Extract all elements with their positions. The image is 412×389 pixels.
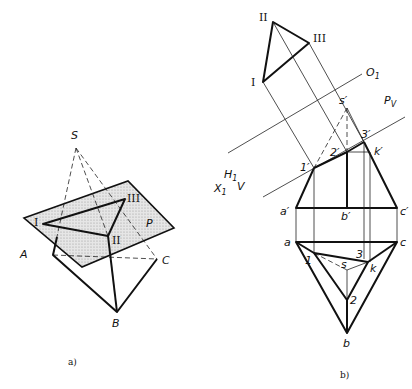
label-s-prime: s′: [339, 94, 348, 107]
label-o1: O1: [366, 66, 380, 81]
label-b: B: [112, 317, 120, 330]
label-b: b: [343, 337, 350, 350]
label-b-prime: b′: [341, 210, 351, 223]
figure-a: S I II III P A C B a): [19, 129, 174, 367]
label-ii: II: [259, 11, 268, 24]
label-1: 1: [305, 254, 312, 267]
label-s: s: [341, 258, 347, 271]
label-1-prime: 1′: [300, 161, 310, 174]
label-2-prime: 2′: [330, 146, 340, 159]
proj-line-iii: [309, 43, 364, 142]
label-c: C: [162, 254, 170, 267]
label-c-prime: c′: [400, 205, 409, 218]
label-k: k: [370, 262, 377, 275]
label-v: V: [237, 180, 246, 193]
label-3: 3: [356, 248, 363, 261]
proj-line-i: [263, 82, 314, 168]
label-h1: H1: [224, 168, 237, 183]
label-2: 2: [350, 294, 357, 307]
label-3-prime: 3′: [361, 128, 371, 141]
label-a: a: [284, 236, 291, 249]
label-s: S: [71, 129, 78, 142]
edge-c-k: [368, 242, 397, 262]
label-a: A: [19, 248, 28, 261]
label-k-prime: k′: [374, 145, 383, 158]
label-c: c: [400, 236, 406, 249]
label-i: I: [34, 216, 38, 229]
label-pv: PV: [384, 94, 397, 109]
figure-b: II III I O1 H1 X1 V PV s′ 1′ 2′ 3′ k′ a′…: [213, 11, 409, 380]
label-ii: II: [112, 234, 121, 247]
label-iii: III: [127, 192, 140, 205]
caption-a: a): [68, 357, 77, 367]
diagram-canvas: S I II III P A C B a): [0, 0, 412, 389]
label-i: I: [251, 76, 255, 89]
proj-line-ii: [273, 22, 347, 152]
label-iii: III: [313, 32, 326, 45]
axis-o1: [228, 74, 362, 153]
label-x1: X1: [213, 182, 227, 197]
caption-b: b): [340, 370, 349, 380]
label-p: P: [146, 217, 153, 230]
label-a-prime: a′: [280, 205, 290, 218]
